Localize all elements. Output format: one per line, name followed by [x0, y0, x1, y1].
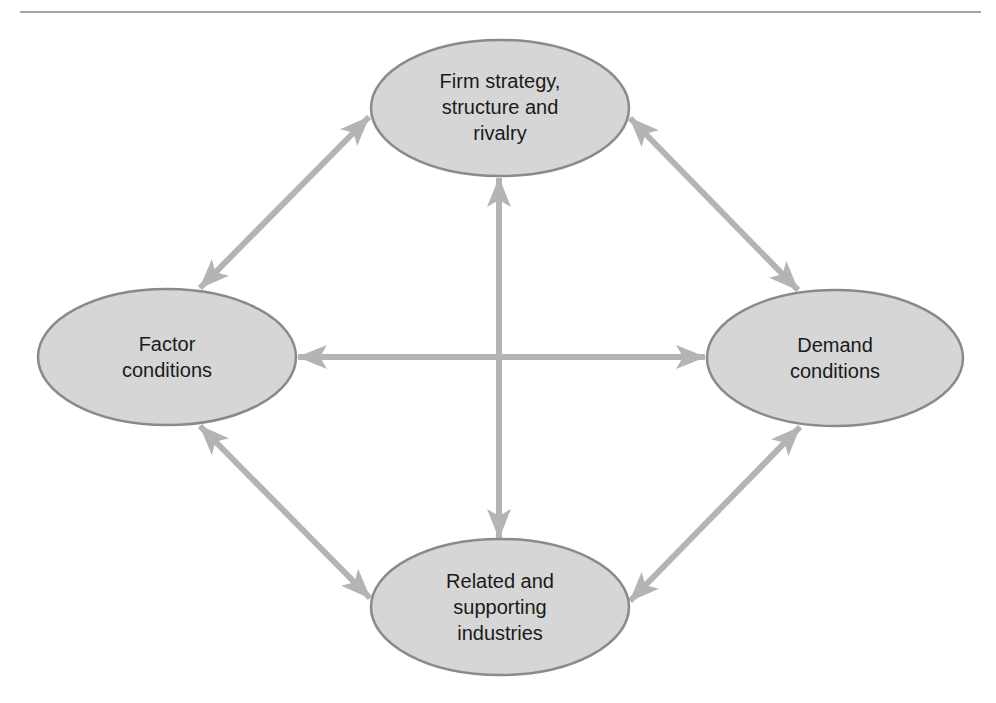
node-firm-strategy-shape [371, 40, 629, 176]
node-factor-conditions-shape [38, 289, 296, 425]
node-demand-conditions-shape [707, 290, 963, 426]
arrow-factor-to-firm [200, 117, 369, 288]
arrow-factor-to-related [200, 426, 370, 598]
diagram-graphics [0, 0, 996, 703]
arrow-demand-to-related [630, 427, 800, 601]
node-related-industries-shape [371, 539, 629, 675]
arrow-firm-to-demand [630, 118, 798, 290]
porter-diamond-diagram: Firm strategy, structure and rivalry Fac… [0, 0, 996, 703]
